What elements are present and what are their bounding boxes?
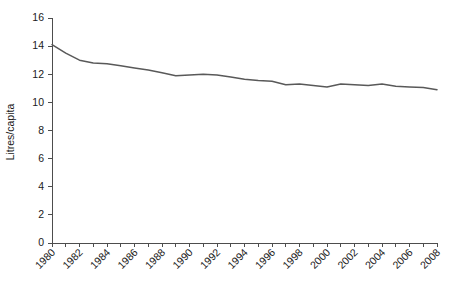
y-tick-label: 16 — [32, 11, 44, 23]
x-tick-label: 1986 — [115, 246, 140, 271]
x-tick-label: 1998 — [280, 246, 305, 271]
y-tick-label: 4 — [38, 180, 44, 192]
y-axis-title: Litres/capita — [4, 104, 16, 161]
x-tick-label: 2002 — [335, 246, 360, 271]
x-tick-label: 1992 — [197, 246, 222, 271]
y-tick-label: 6 — [38, 152, 44, 164]
x-axis: 1980198219841986198819901992199419961998… — [32, 243, 442, 271]
x-tick-label: 2006 — [390, 246, 415, 271]
y-tick-label: 10 — [32, 96, 44, 108]
y-axis: 0246810121416 — [32, 11, 52, 248]
x-tick-label: 2000 — [307, 246, 332, 271]
y-tick-label: 2 — [38, 208, 44, 220]
x-tick-label: 1988 — [142, 246, 167, 271]
x-tick-label: 1996 — [252, 246, 277, 271]
x-tick-label: 1982 — [60, 246, 85, 271]
chart-container: 0246810121416 19801982198419861988199019… — [0, 0, 457, 288]
y-tick-label: 12 — [32, 68, 44, 80]
y-tick-label: 8 — [38, 124, 44, 136]
x-tick-label: 1994 — [225, 246, 250, 271]
x-tick-label: 1990 — [170, 246, 195, 271]
data-series — [52, 45, 437, 90]
x-tick-label: 2008 — [417, 246, 442, 271]
y-tick-label: 14 — [32, 39, 44, 51]
x-tick-label: 2004 — [362, 246, 387, 271]
x-tick-label: 1980 — [32, 246, 57, 271]
line-chart: 0246810121416 19801982198419861988199019… — [0, 0, 457, 288]
y-tick-label: 0 — [38, 236, 44, 248]
series-line — [52, 45, 437, 90]
x-tick-label: 1984 — [87, 246, 112, 271]
